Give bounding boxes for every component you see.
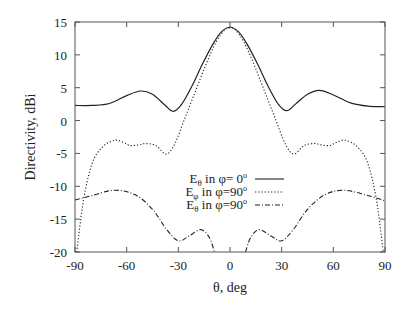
y-tick-label: -20 <box>50 245 67 260</box>
directivity-chart: -90-60-300306090151050-5-10-15-20 θ, deg… <box>0 0 413 311</box>
axis-ticks <box>75 22 385 252</box>
curves <box>75 27 385 252</box>
curve-dash-dot <box>246 190 386 252</box>
x-tick-label: -60 <box>118 258 135 273</box>
x-axis-title: θ, deg <box>213 280 247 295</box>
x-tick-label: -90 <box>66 258 83 273</box>
curve-solid <box>75 27 385 111</box>
x-tick-label: 30 <box>275 258 288 273</box>
y-axis-title: Directivity, dBi <box>23 93 38 180</box>
tick-labels: -90-60-300306090151050-5-10-15-20 <box>50 15 392 273</box>
x-tick-label: 90 <box>379 258 392 273</box>
x-tick-label: 0 <box>227 258 234 273</box>
x-tick-label: -30 <box>170 258 187 273</box>
curve-dotted <box>77 28 384 252</box>
y-tick-label: -5 <box>56 146 67 161</box>
y-tick-label: 15 <box>54 15 67 30</box>
y-tick-label: -10 <box>50 179 67 194</box>
x-tick-label: 60 <box>327 258 340 273</box>
y-tick-label: 10 <box>54 48 67 63</box>
legend: Eθ in φ= 0oEφ in φ=90oEθ in φ=90o <box>185 171 284 214</box>
y-tick-label: 5 <box>61 81 68 96</box>
plot-frame <box>75 22 385 252</box>
y-tick-label: 0 <box>61 114 68 129</box>
y-tick-label: -15 <box>50 212 67 227</box>
